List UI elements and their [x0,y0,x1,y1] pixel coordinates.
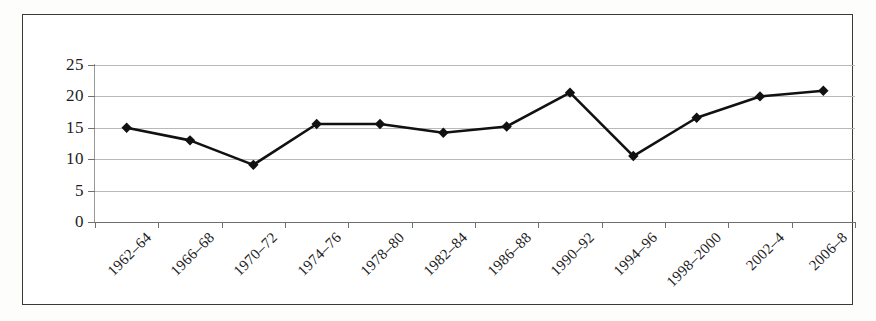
x-axis-labels: 1962–641966–681970–721974–761978–801982–… [95,229,855,319]
x-tick-label: 1962–64 [104,229,155,280]
data-point-marker [755,91,765,101]
x-tick-mark [348,222,349,228]
x-tick-label: 1970–72 [231,229,282,280]
x-tick-label: 1966–68 [167,229,218,280]
y-tick-mark [88,159,95,160]
data-point-marker [818,86,828,96]
x-tick-label: 1974–76 [294,229,345,280]
x-tick-mark [855,222,856,228]
x-tick-mark [158,222,159,228]
data-point-marker [501,121,511,131]
x-tick-mark [538,222,539,228]
plot-area: 0510152025 [95,65,855,222]
x-tick-mark [95,222,96,228]
x-tick-label: 1990–92 [547,229,598,280]
chart-figure: 0510152025 1962–641966–681970–721974–761… [0,0,876,321]
y-tick-label: 0 [75,212,84,232]
x-tick-mark [602,222,603,228]
y-tick-mark [88,65,95,66]
x-tick-mark [475,222,476,228]
x-tick-label: 1994–96 [611,229,662,280]
y-tick-mark [88,191,95,192]
data-point-marker [438,128,448,138]
y-tick-label: 10 [66,149,84,169]
y-tick-label: 25 [66,55,84,75]
x-tick-label: 1982–84 [421,229,472,280]
x-tick-label: 2002–4 [743,229,788,274]
y-tick-mark [88,96,95,97]
chart-frame: 0510152025 1962–641966–681970–721974–761… [22,14,853,305]
x-tick-label: 2006–8 [806,229,851,274]
x-tick-mark [728,222,729,228]
data-point-marker [375,119,385,129]
data-point-marker [185,135,195,145]
y-tick-label: 5 [75,181,84,201]
x-tick-mark [792,222,793,228]
y-tick-mark [88,128,95,129]
data-point-marker [121,123,131,133]
y-tick-mark [88,222,95,223]
x-tick-label: 1986–88 [484,229,535,280]
x-tick-mark [222,222,223,228]
x-tick-mark [285,222,286,228]
line-series [95,65,855,222]
x-tick-mark [412,222,413,228]
series-line [127,91,824,165]
x-tick-mark [665,222,666,228]
x-tick-label: 1978–80 [357,229,408,280]
x-tick-label: 1998–2000 [663,229,725,291]
y-tick-label: 15 [66,118,84,138]
y-tick-label: 20 [66,86,84,106]
